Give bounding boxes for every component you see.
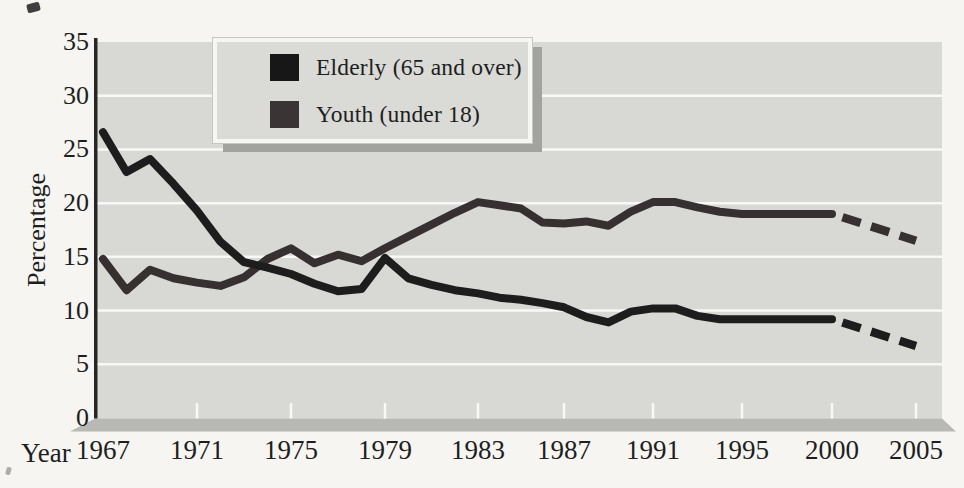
- y-axis-line: [94, 38, 98, 419]
- y-tick-label-35: 35: [35, 28, 89, 56]
- x-tick-mark-1987: [563, 403, 566, 419]
- axis-base-shadow-band: [70, 419, 956, 432]
- x-tick-label-1983: 1983: [430, 437, 526, 463]
- y-tick-label-5: 5: [35, 350, 89, 378]
- y-tick-label-15: 15: [35, 243, 89, 271]
- elderly-swatch-icon: [270, 54, 299, 81]
- legend-item-label: Youth (under 18): [316, 101, 480, 128]
- x-tick-label-1987: 1987: [516, 437, 612, 463]
- legend-item-label: Elderly (65 and over): [316, 54, 522, 81]
- x-tick-label-1971: 1971: [149, 437, 245, 463]
- x-tick-label-1995: 1995: [694, 437, 790, 463]
- y-tick-label-10: 10: [35, 297, 89, 325]
- legend-item-elderly: Elderly (65 and over): [270, 54, 528, 81]
- x-tick-mark-2005: [915, 403, 918, 419]
- legend-item-youth: Youth (under 18): [270, 101, 528, 128]
- y-tick-label-0: 0: [35, 404, 89, 432]
- y-tick-label-25: 25: [35, 135, 89, 163]
- x-tick-mark-2000: [831, 403, 834, 419]
- figure-root: Percentage Year 35302520151050 196719711…: [0, 0, 964, 488]
- y-tick-label-30: 30: [35, 82, 89, 110]
- x-tick-label-2005: 2005: [868, 437, 964, 463]
- youth-swatch-icon: [270, 101, 299, 128]
- x-tick-mark-1971: [196, 403, 199, 419]
- legend: Elderly (65 and over) Youth (under 18): [213, 38, 532, 143]
- x-tick-mark-1979: [384, 403, 387, 419]
- x-tick-label-2000: 2000: [784, 437, 880, 463]
- y-tick-label-20: 20: [35, 189, 89, 217]
- x-tick-label-1975: 1975: [243, 437, 339, 463]
- x-tick-label-1979: 1979: [337, 437, 433, 463]
- x-tick-label-1967: 1967: [55, 437, 151, 463]
- x-tick-mark-1991: [652, 403, 655, 419]
- x-tick-mark-1983: [477, 403, 480, 419]
- x-tick-label-1991: 1991: [605, 437, 701, 463]
- x-tick-mark-1995: [741, 403, 744, 419]
- x-tick-mark-1975: [290, 403, 293, 419]
